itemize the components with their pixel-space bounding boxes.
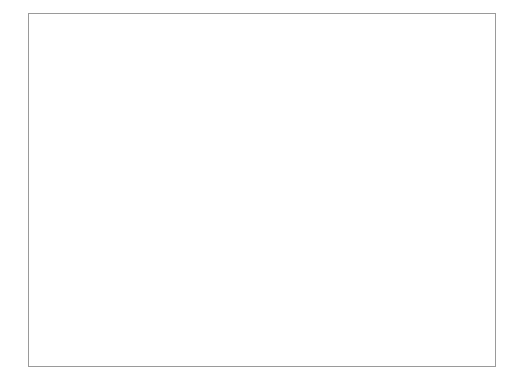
chart-container: 0.00.20.40.60.81940194219441946194819501… (0, 0, 513, 383)
figure-frame (28, 13, 496, 367)
